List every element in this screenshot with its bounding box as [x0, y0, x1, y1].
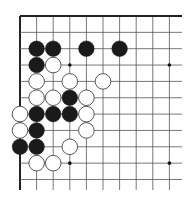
white-stone — [12, 106, 28, 122]
white-stone — [79, 90, 95, 106]
black-stone — [79, 41, 95, 57]
white-stone — [45, 90, 61, 106]
hoshi-point — [168, 161, 172, 165]
white-stone — [12, 123, 28, 139]
white-stone — [95, 74, 111, 90]
hoshi-point — [68, 63, 72, 67]
white-stone — [29, 90, 45, 106]
white-stone — [29, 74, 45, 90]
hoshi-point — [168, 63, 172, 67]
white-stone — [79, 123, 95, 139]
black-stone — [45, 106, 61, 122]
black-stone — [29, 139, 45, 155]
white-stone — [62, 139, 78, 155]
go-board[interactable] — [0, 0, 190, 203]
black-stone — [29, 41, 45, 57]
black-stone — [12, 139, 28, 155]
white-stone — [62, 74, 78, 90]
white-stone — [29, 155, 45, 171]
hoshi-point — [68, 161, 72, 165]
black-stone — [45, 41, 61, 57]
black-stone — [29, 57, 45, 73]
black-stone — [29, 106, 45, 122]
white-stone — [45, 57, 61, 73]
white-stone — [45, 155, 61, 171]
black-stone — [29, 123, 45, 139]
black-stone — [62, 106, 78, 122]
black-stone — [112, 41, 128, 57]
white-stone — [79, 106, 95, 122]
black-stone — [62, 90, 78, 106]
